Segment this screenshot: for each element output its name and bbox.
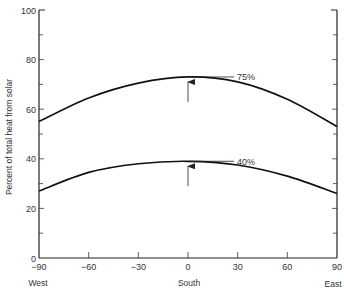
annotation-label-75: 75% — [237, 72, 255, 82]
x-tick-label: 60 — [282, 262, 292, 272]
x-tick-label: 90 — [332, 262, 342, 272]
y-tick-label: 100 — [21, 6, 36, 16]
y-tick-label: 40 — [26, 154, 36, 164]
x-tick-label: −60 — [81, 262, 96, 272]
axes — [39, 10, 337, 258]
south-label: South — [178, 278, 200, 288]
x-tick-label: 30 — [233, 262, 243, 272]
x-tick-label: −30 — [131, 262, 146, 272]
chart: 020406080100−90−60−300306090 75%40% Perc… — [0, 0, 344, 296]
annotations: 75%40% — [188, 72, 255, 186]
annotation-label-40: 40% — [237, 157, 255, 167]
ticks: 020406080100−90−60−300306090 — [21, 6, 342, 273]
x-tick-label: −90 — [31, 262, 46, 272]
y-axis-label: Percent of total heat from solar — [4, 79, 14, 195]
y-tick-label: 20 — [26, 204, 36, 214]
east-label: East — [324, 279, 342, 289]
west-label: West — [28, 278, 48, 288]
x-tick-label: 0 — [185, 262, 190, 272]
y-tick-label: 60 — [26, 105, 36, 115]
y-tick-label: 80 — [26, 55, 36, 65]
